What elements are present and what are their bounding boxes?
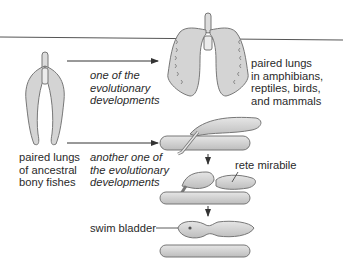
tetrapod-lungs-illustration xyxy=(168,13,248,96)
label-swim-bladder: swim bladder xyxy=(90,222,156,235)
stage-three-illustration xyxy=(156,221,254,257)
label-rete-mirabile: rete mirabile xyxy=(235,159,297,172)
label-path-two: another one of the evolutionary developm… xyxy=(90,151,169,189)
ancestral-lungs-illustration xyxy=(26,52,65,145)
label-path-one: one of the evolutionary developments xyxy=(90,69,160,107)
stage-two-illustration xyxy=(160,172,255,204)
label-tetrapod-lungs: paired lungs in amphibians, reptiles, bi… xyxy=(251,57,323,107)
stage-one-illustration xyxy=(160,117,261,154)
diagram-canvas xyxy=(0,0,343,265)
label-ancestral-lungs: paired lungs of ancestral bony fishes xyxy=(19,151,80,189)
top-separator-line xyxy=(0,37,343,40)
